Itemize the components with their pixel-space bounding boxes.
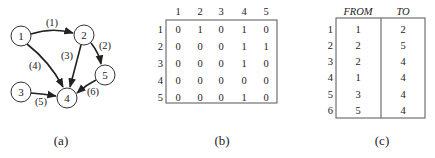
matrix-cell: 1	[241, 41, 246, 52]
to-cell: 5	[400, 40, 405, 51]
matrix-cell: 1	[241, 92, 246, 103]
svg-text:3: 3	[158, 58, 163, 69]
svg-text:1: 1	[328, 24, 333, 35]
svg-text:2: 2	[328, 40, 333, 51]
matrix-cell: 1	[263, 41, 268, 52]
from-header: FROM	[342, 6, 373, 17]
matrix-cell: 0	[263, 24, 268, 35]
matrix-column-headers: 1 2 3 4 5	[175, 6, 268, 17]
edge-label: (5)	[35, 96, 48, 108]
svg-text:2: 2	[197, 6, 202, 17]
panel-b-adjacency-matrix: 1 2 3 4 5 1 2 3 4 5 0 1 0 1 0 0 0 0 1 1	[158, 6, 277, 148]
to-cell: 4	[400, 56, 406, 67]
svg-text:4: 4	[241, 6, 247, 17]
matrix-cell: 0	[197, 41, 202, 52]
matrix-cell: 0	[175, 58, 180, 69]
edge-label: (3)	[61, 50, 74, 62]
matrix-cell: 1	[197, 24, 202, 35]
matrix-cell: 0	[263, 75, 268, 86]
to-cell: 2	[400, 24, 405, 35]
figure: (1) (2) (3) (4) (5) (6) 1 2 3 4	[0, 0, 435, 158]
from-cell: 2	[355, 56, 360, 67]
matrix-cell: 0	[263, 58, 268, 69]
panel-a-graph: (1) (2) (3) (4) (5) (6) 1 2 3 4	[11, 17, 115, 148]
to-cell: 4	[400, 72, 406, 83]
svg-text:1: 1	[158, 24, 163, 35]
svg-text:1: 1	[175, 6, 180, 17]
graph-node: 2	[74, 25, 94, 45]
graph-node: 1	[11, 26, 31, 46]
svg-text:2: 2	[81, 29, 87, 41]
matrix-cell: 0	[175, 24, 180, 35]
matrix-cell: 0	[175, 41, 180, 52]
to-cell: 4	[400, 105, 406, 116]
caption-b: (b)	[214, 133, 229, 148]
matrix-cell: 0	[218, 75, 223, 86]
matrix-cell: 0	[263, 92, 268, 103]
to-cell: 4	[400, 89, 406, 100]
caption-c: (c)	[375, 133, 389, 148]
svg-text:3: 3	[328, 56, 333, 67]
svg-text:3: 3	[218, 6, 223, 17]
svg-text:5: 5	[102, 69, 108, 81]
matrix-cell: 0	[218, 92, 223, 103]
svg-text:6: 6	[328, 105, 333, 116]
from-cell: 3	[355, 89, 360, 100]
from-cell: 5	[355, 105, 360, 116]
svg-text:1: 1	[18, 30, 24, 42]
from-cell: 2	[355, 40, 360, 51]
graph-node: 4	[57, 88, 77, 108]
matrix-cell: 0	[197, 75, 202, 86]
matrix-cell: 0	[197, 92, 202, 103]
edge-list-row-headers: 1 2 3 4 5 6	[328, 24, 334, 116]
graph-node: 3	[11, 82, 31, 102]
svg-text:5: 5	[328, 89, 333, 100]
matrix-cell: 0	[175, 75, 180, 86]
svg-text:3: 3	[18, 86, 24, 98]
edge-1-to-2	[31, 30, 73, 34]
graph-node: 5	[95, 65, 115, 85]
matrix-cell: 0	[175, 92, 180, 103]
matrix-cell: 0	[218, 24, 223, 35]
matrix-cells: 0 1 0 1 0 0 0 0 1 1 0 0 0 1 0 0 0 0 0 0 …	[175, 24, 268, 103]
from-cell: 1	[355, 24, 360, 35]
matrix-cell: 1	[241, 58, 246, 69]
svg-text:4: 4	[328, 72, 334, 83]
matrix-cell: 0	[218, 58, 223, 69]
panel-c-edge-list: FROM TO 1 2 3 4 5 6 1 2 2 5 2 4 1	[328, 6, 425, 148]
matrix-cell: 0	[218, 41, 223, 52]
matrix-row-headers: 1 2 3 4 5	[158, 24, 164, 103]
matrix-cell: 0	[197, 58, 202, 69]
graph-nodes: 1 2 3 4 5	[11, 25, 115, 108]
svg-text:2: 2	[158, 41, 163, 52]
caption-a: (a)	[54, 133, 68, 148]
to-header: TO	[396, 6, 410, 17]
matrix-cell: 1	[241, 24, 246, 35]
matrix-cell: 0	[241, 75, 246, 86]
edge-label: (2)	[99, 40, 112, 52]
edge-label: (6)	[87, 86, 100, 98]
from-cell: 1	[355, 72, 360, 83]
edge-label: (1)	[46, 17, 59, 29]
edge-label: (4)	[29, 60, 42, 72]
svg-text:4: 4	[64, 92, 70, 104]
svg-text:5: 5	[158, 92, 163, 103]
svg-text:5: 5	[263, 6, 268, 17]
svg-text:4: 4	[158, 75, 164, 86]
